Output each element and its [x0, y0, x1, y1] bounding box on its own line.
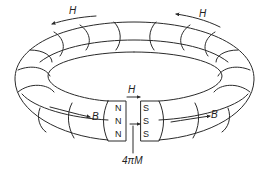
label-b-right: B: [211, 110, 218, 120]
label-h-top-left: H: [69, 6, 76, 16]
label-b-left: B: [92, 112, 99, 122]
label-h-gap: H: [128, 85, 135, 95]
pole-north-1: N: [115, 104, 122, 113]
pole-south-3: S: [143, 130, 149, 139]
label-h-top-right: H: [199, 9, 206, 19]
pole-south-1: S: [143, 104, 149, 113]
torus-inner-top: [40, 40, 228, 62]
label-magnetization: 4πM: [122, 156, 143, 166]
h-arrow-top-right: [176, 14, 220, 27]
pole-north-2: N: [115, 117, 122, 126]
h-arrow-top-left: [52, 16, 96, 24]
pole-north-3: N: [115, 130, 122, 139]
torus-inner-bottom-right: [159, 94, 248, 120]
pole-south-2: S: [143, 117, 149, 126]
toroid-diagram: H H H B B 4πM N N N S S S: [0, 0, 267, 172]
